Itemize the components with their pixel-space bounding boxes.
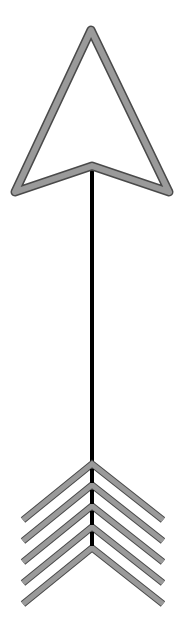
fletching-chevron-outline (23, 548, 163, 604)
fletching-chevron (23, 548, 163, 604)
arrowhead-icon (15, 30, 169, 192)
fletching (23, 464, 163, 604)
arrow-illustration (0, 0, 186, 634)
